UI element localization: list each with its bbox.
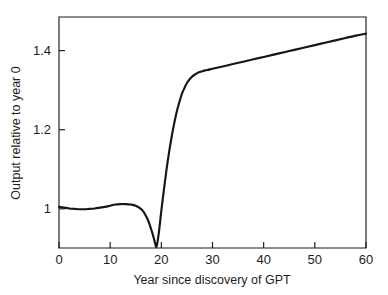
y-tick-label: 1.4 (33, 43, 51, 58)
x-tick-label: 50 (308, 252, 322, 267)
x-tick-label: 60 (359, 252, 373, 267)
line-chart: 0102030405060 11.21.4 Year since discove… (0, 0, 388, 295)
y-tick-labels: 11.21.4 (33, 43, 51, 216)
x-tick-labels: 0102030405060 (55, 252, 373, 267)
y-tick-label: 1.2 (33, 122, 51, 137)
data-series-line (59, 34, 366, 248)
plot-frame (59, 17, 366, 248)
y-axis-label: Output relative to year 0 (9, 66, 23, 199)
y-tick-marks (59, 51, 65, 209)
x-tick-label: 40 (256, 252, 270, 267)
x-tick-label: 20 (154, 252, 168, 267)
x-tick-marks (59, 242, 366, 248)
x-tick-label: 30 (205, 252, 219, 267)
y-tick-label: 1 (44, 201, 51, 216)
x-axis-label: Year since discovery of GPT (133, 273, 291, 287)
x-tick-label: 10 (103, 252, 117, 267)
x-tick-label: 0 (55, 252, 62, 267)
